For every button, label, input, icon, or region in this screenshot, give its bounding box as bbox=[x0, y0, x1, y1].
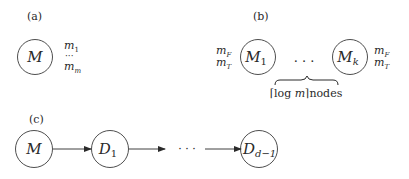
panel-b: (b) mF mT M1 . . . Mk mF mT bbox=[216, 10, 390, 100]
panel-a-label: (a) bbox=[27, 10, 42, 23]
log-text: log bbox=[274, 87, 295, 100]
chain-ellipsis: · · · bbox=[178, 143, 195, 156]
chain-node-d1-sub: 1 bbox=[111, 148, 117, 159]
chain-node-dd1-label: D bbox=[242, 140, 255, 158]
node-mk-label: M bbox=[336, 48, 353, 66]
node-m1-label: M bbox=[244, 48, 261, 66]
log-var: m bbox=[295, 87, 305, 100]
left-messages: mF mT bbox=[216, 44, 232, 71]
brace-label: ⌈log m⌉nodes bbox=[270, 87, 343, 100]
right-msg-bottom: m bbox=[374, 56, 384, 69]
overbrace bbox=[275, 76, 338, 85]
svg-text:Dd−1: Dd−1 bbox=[242, 140, 276, 159]
right-msg-bottom-sub: T bbox=[384, 63, 390, 71]
svg-text:M1: M1 bbox=[244, 48, 267, 67]
left-msg-top-sub: F bbox=[225, 51, 232, 59]
message-list: m1 ··· mm bbox=[64, 39, 81, 75]
panel-b-label: (b) bbox=[253, 10, 269, 23]
node-m-label: M bbox=[26, 48, 43, 66]
left-msg-bottom-sub: T bbox=[226, 63, 232, 71]
node-m1-sub: 1 bbox=[260, 56, 266, 67]
chain-node-dd1-sub: d−1 bbox=[255, 148, 276, 159]
node-mk-sub: k bbox=[353, 56, 359, 67]
right-msg-top-sub: F bbox=[383, 51, 390, 59]
message-last: m bbox=[64, 60, 74, 73]
panel-c: (c) M D1 · · · Dd−1 bbox=[16, 113, 278, 168]
chain-node-m-label: M bbox=[25, 140, 42, 158]
svg-text:mm: mm bbox=[64, 60, 81, 75]
right-messages: mF mT bbox=[374, 44, 390, 71]
panel-a: (a) M m1 ··· mm bbox=[18, 10, 82, 75]
left-msg-bottom: m bbox=[216, 56, 226, 69]
diagram-canvas: (a) M m1 ··· mm (b) mF mT M1 bbox=[0, 0, 409, 179]
svg-text:D1: D1 bbox=[98, 140, 117, 159]
message-last-sub: m bbox=[74, 67, 81, 75]
chain-node-d1-label: D bbox=[98, 140, 111, 158]
message-first-sub: 1 bbox=[74, 46, 78, 54]
svg-text:Mk: Mk bbox=[336, 48, 358, 67]
nodes-text: nodes bbox=[309, 87, 342, 100]
ellipsis-b: . . . bbox=[294, 50, 315, 65]
panel-c-label: (c) bbox=[29, 113, 44, 126]
